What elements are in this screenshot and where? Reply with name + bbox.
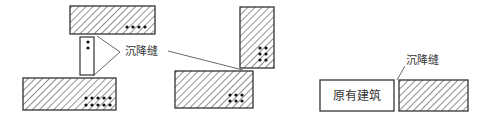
top-block bbox=[70, 6, 155, 34]
figure-middle bbox=[168, 7, 274, 108]
leader-line-right bbox=[397, 66, 405, 80]
existing-building-label: 原有建筑 bbox=[333, 90, 381, 102]
figure-left bbox=[23, 6, 155, 110]
wide-block bbox=[175, 71, 253, 108]
new-building-block bbox=[399, 80, 468, 111]
joint-label-right: 沉降缝 bbox=[406, 55, 439, 66]
leader-lines-left bbox=[93, 36, 120, 76]
tall-block bbox=[240, 7, 274, 68]
leader-line-middle bbox=[168, 51, 243, 70]
bottom-block bbox=[23, 78, 116, 110]
joint-label-left: 沉降缝 bbox=[125, 46, 158, 57]
